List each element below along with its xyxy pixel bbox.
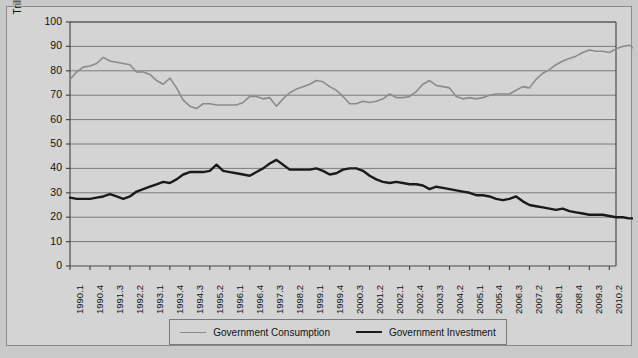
chart-legend: Government Consumption Government Invest… [169,319,507,345]
chart-figure: Trillions of Yen (real) 0102030405060708… [6,6,632,346]
legend-label-consumption: Government Consumption [213,327,330,338]
series-line-government-consumption [70,45,633,108]
legend-item-government-consumption: Government Consumption [180,327,330,338]
legend-label-investment: Government Investment [389,327,496,338]
investment-line-swatch [356,331,382,333]
plot-area [7,7,633,347]
legend-item-government-investment: Government Investment [356,327,496,338]
plot-svg [7,7,633,347]
consumption-line-swatch [180,332,206,333]
